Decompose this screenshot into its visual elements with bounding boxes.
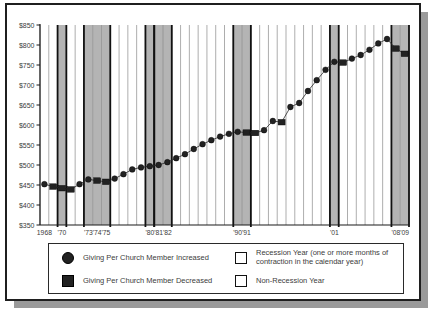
non-recession-year-band bbox=[110, 25, 119, 225]
non-recession-year-band bbox=[66, 25, 75, 225]
data-point-decrease bbox=[401, 51, 408, 57]
data-point-increase bbox=[235, 129, 241, 135]
non-recession-year-band bbox=[225, 25, 234, 225]
y-axis-label: $550 bbox=[19, 142, 35, 149]
non-recession-year-band bbox=[339, 25, 348, 225]
data-point-decrease bbox=[392, 46, 399, 52]
y-axis-label: $750 bbox=[19, 62, 35, 69]
chart-frame: $350$400$450$500$550$600$650$700$750$800… bbox=[5, 3, 421, 301]
x-axis-label: '73 bbox=[84, 229, 93, 236]
data-point-increase bbox=[182, 151, 188, 157]
data-point-increase bbox=[375, 41, 381, 47]
y-axis-label: $850 bbox=[19, 22, 35, 29]
data-point-increase bbox=[217, 134, 223, 140]
recession-year-band bbox=[102, 25, 111, 225]
non-recession-year-band bbox=[286, 25, 295, 225]
non-recession-year-band bbox=[374, 25, 383, 225]
non-recession-square-icon bbox=[235, 275, 247, 287]
non-recession-year-band bbox=[181, 25, 190, 225]
data-point-increase bbox=[270, 118, 276, 124]
data-point-increase bbox=[200, 141, 206, 147]
data-point-increase bbox=[129, 167, 135, 173]
data-point-increase bbox=[156, 162, 162, 168]
y-axis-label: $400 bbox=[19, 202, 35, 209]
non-recession-year-band bbox=[198, 25, 207, 225]
x-axis-label: '82 bbox=[163, 229, 172, 236]
data-point-increase bbox=[85, 177, 91, 183]
data-point-decrease bbox=[243, 130, 250, 136]
y-axis-label: $600 bbox=[19, 122, 35, 129]
data-point-increase bbox=[138, 165, 144, 171]
legend-recession-line2: contraction in the calendar year) bbox=[256, 257, 363, 266]
y-axis-label: $450 bbox=[19, 182, 35, 189]
data-point-increase bbox=[77, 181, 83, 187]
legend-item-increased: Giving Per Church Member Increased bbox=[62, 252, 209, 264]
decrease-square-icon bbox=[62, 275, 74, 287]
data-point-decrease bbox=[50, 184, 57, 190]
chart-legend: Giving Per Church Member Increased Givin… bbox=[48, 243, 404, 294]
legend-increased-label: Giving Per Church Member Increased bbox=[83, 254, 209, 263]
recession-year-band bbox=[93, 25, 102, 225]
non-recession-year-band bbox=[40, 25, 49, 225]
non-recession-year-band bbox=[216, 25, 225, 225]
non-recession-year-band bbox=[383, 25, 392, 225]
data-point-increase bbox=[121, 171, 127, 177]
non-recession-year-band bbox=[295, 25, 304, 225]
data-point-decrease bbox=[340, 60, 347, 66]
data-point-increase bbox=[208, 137, 214, 143]
recession-year-band bbox=[154, 25, 163, 225]
data-point-increase bbox=[305, 88, 311, 94]
x-axis-label: '09 bbox=[400, 229, 409, 236]
data-point-increase bbox=[191, 146, 197, 152]
y-axis-label: $350 bbox=[19, 222, 35, 229]
legend-item-decreased: Giving Per Church Member Decreased bbox=[62, 275, 212, 287]
non-recession-year-band bbox=[304, 25, 313, 225]
non-recession-year-band bbox=[172, 25, 181, 225]
data-point-increase bbox=[164, 159, 170, 165]
y-axis-label: $700 bbox=[19, 82, 35, 89]
recession-year-band bbox=[330, 25, 339, 225]
recession-year-band bbox=[233, 25, 242, 225]
data-point-decrease bbox=[58, 185, 65, 191]
legend-item-recession: Recession Year (one or more months of co… bbox=[235, 249, 388, 266]
data-point-increase bbox=[41, 181, 47, 187]
data-point-increase bbox=[349, 56, 355, 62]
non-recession-year-band bbox=[128, 25, 137, 225]
data-point-increase bbox=[287, 104, 293, 110]
non-recession-year-band bbox=[365, 25, 374, 225]
non-recession-year-band bbox=[119, 25, 128, 225]
data-point-decrease bbox=[67, 187, 74, 193]
non-recession-year-band bbox=[49, 25, 58, 225]
data-point-decrease bbox=[252, 130, 259, 136]
data-point-increase bbox=[331, 59, 337, 65]
x-axis-label: '08 bbox=[391, 229, 400, 236]
y-axis-label: $500 bbox=[19, 162, 35, 169]
non-recession-year-band bbox=[268, 25, 277, 225]
recession-year-band bbox=[242, 25, 251, 225]
legend-recession-label: Recession Year (one or more months of co… bbox=[256, 249, 388, 266]
non-recession-year-band bbox=[189, 25, 198, 225]
data-point-decrease bbox=[102, 179, 109, 185]
increase-circle-icon bbox=[62, 252, 74, 264]
recession-year-band bbox=[84, 25, 93, 225]
data-point-increase bbox=[323, 67, 329, 73]
non-recession-year-band bbox=[137, 25, 146, 225]
recession-year-band bbox=[391, 25, 400, 225]
x-axis-label: '90 bbox=[233, 229, 242, 236]
non-recession-year-band bbox=[321, 25, 330, 225]
x-axis-label: '01 bbox=[330, 229, 339, 236]
non-recession-year-band bbox=[251, 25, 260, 225]
data-point-increase bbox=[314, 77, 320, 83]
y-axis-label: $800 bbox=[19, 42, 35, 49]
data-point-increase bbox=[226, 131, 232, 137]
x-axis-label: 1968 bbox=[37, 229, 52, 236]
data-point-increase bbox=[112, 176, 118, 182]
data-point-increase bbox=[367, 47, 373, 53]
legend-item-non-recession: Non-Recession Year bbox=[235, 275, 324, 287]
legend-non-recession-label: Non-Recession Year bbox=[256, 277, 324, 286]
x-axis-label: '91 bbox=[242, 229, 251, 236]
non-recession-year-band bbox=[348, 25, 357, 225]
recession-year-band bbox=[163, 25, 172, 225]
x-axis-label: '80 bbox=[145, 229, 154, 236]
non-recession-year-band bbox=[207, 25, 216, 225]
